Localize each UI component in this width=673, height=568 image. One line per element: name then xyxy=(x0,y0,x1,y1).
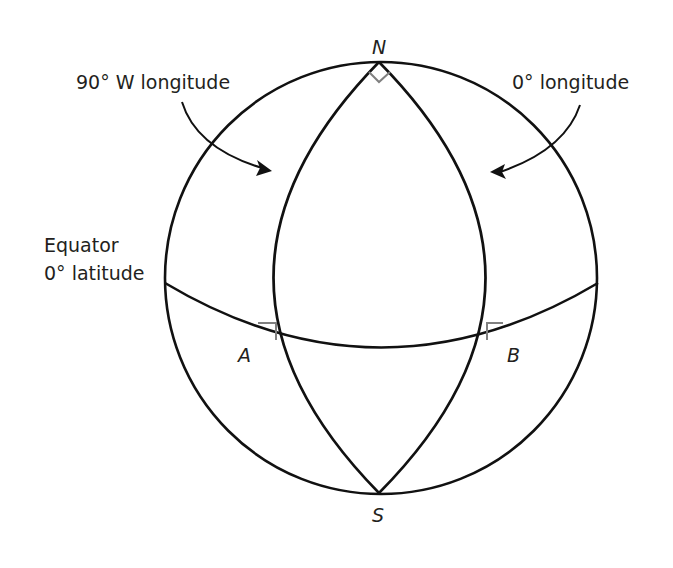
label-latitude: 0° latitude xyxy=(44,262,145,284)
meridian-90w xyxy=(274,62,380,493)
label-south: S xyxy=(372,504,384,526)
right-angle-marker-n xyxy=(369,72,390,82)
arrowhead-90w-icon xyxy=(256,160,272,176)
label-point-a: A xyxy=(236,344,251,366)
label-90w-longitude: 90° W longitude xyxy=(76,71,230,93)
arrow-0 xyxy=(500,105,580,172)
sphere-outline xyxy=(165,62,597,494)
label-0-longitude: 0° longitude xyxy=(512,71,629,93)
sphere-diagram: N S A B 90° W longitude 0° longitude Equ… xyxy=(0,0,673,568)
label-equator: Equator xyxy=(44,234,119,256)
meridian-0 xyxy=(379,62,486,493)
label-north: N xyxy=(372,36,386,58)
arrow-90w xyxy=(182,102,262,168)
equator-line xyxy=(165,283,598,348)
label-point-b: B xyxy=(507,344,520,366)
